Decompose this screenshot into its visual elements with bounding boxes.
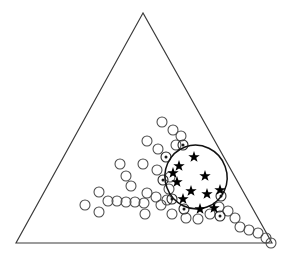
data-point-open-circle (181, 213, 191, 223)
data-point-open-circle (157, 117, 167, 127)
data-point-open-circle (193, 214, 203, 224)
data-point-open-circle (153, 144, 163, 154)
data-point-open-circle (142, 136, 152, 146)
plot-canvas (0, 0, 290, 260)
data-point-dotted-circle (167, 194, 177, 204)
data-point-open-circle (266, 238, 276, 248)
data-point-open-circle (126, 181, 136, 191)
data-point-dotted-circle (215, 211, 225, 221)
data-point-open-circle (152, 165, 162, 175)
data-point-open-circle (140, 209, 150, 219)
data-point-open-circle (176, 131, 186, 141)
data-point-open-circle (80, 200, 90, 210)
data-point-open-circle (138, 159, 148, 169)
data-point-open-circle (112, 196, 122, 206)
data-point-open-circle (115, 159, 125, 169)
data-point-dotted-circle (158, 175, 168, 185)
ternary-scatter-figure (0, 0, 290, 260)
plot-background (0, 0, 290, 260)
data-point-open-circle (167, 209, 177, 219)
data-point-open-circle (94, 207, 104, 217)
data-point-open-circle (130, 197, 140, 207)
data-point-open-circle (139, 198, 149, 208)
data-point-open-circle (121, 171, 131, 181)
data-point-open-circle (94, 187, 104, 197)
data-point-open-circle (230, 213, 240, 223)
